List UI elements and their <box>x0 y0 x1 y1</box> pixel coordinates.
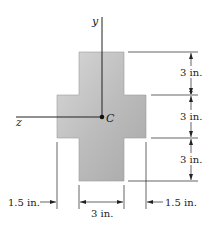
y-axis-label: y <box>91 15 99 28</box>
dim-right-top: 3 in. <box>180 67 202 78</box>
centroid-point <box>100 115 105 120</box>
cross-section-diagram: y z C 3 in. 3 in. 3 in. 1.5 in. 3 in. 1.… <box>0 0 208 230</box>
dim-bottom-center: 3 in. <box>91 208 113 219</box>
dim-right-middle: 3 in. <box>180 111 202 122</box>
centroid-label: C <box>106 112 115 125</box>
z-axis-label: z <box>15 116 22 129</box>
dim-bottom-left: 1.5 in. <box>8 197 40 208</box>
dim-right-bottom: 3 in. <box>180 154 202 165</box>
dim-bottom-right: 1.5 in. <box>165 197 197 208</box>
